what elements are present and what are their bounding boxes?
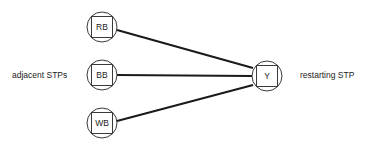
diagram-canvas: RB BB WB Y adjacent STPs restarting STP bbox=[0, 0, 373, 149]
node-bb[interactable]: BB bbox=[87, 60, 117, 90]
node-bb-label: BB bbox=[96, 70, 108, 80]
node-rb-label: RB bbox=[96, 22, 108, 32]
node-wb-label: WB bbox=[95, 118, 109, 128]
node-y[interactable]: Y bbox=[252, 61, 282, 91]
edge-rb-to-y bbox=[117, 30, 253, 68]
edge-group bbox=[117, 30, 253, 121]
node-y-label: Y bbox=[264, 71, 270, 81]
edge-wb-to-y bbox=[117, 85, 253, 121]
edge-bb-to-y bbox=[117, 75, 252, 76]
node-rb[interactable]: RB bbox=[87, 12, 117, 42]
adjacent-stps-label: adjacent STPs bbox=[12, 71, 67, 80]
restarting-stp-label: restarting STP bbox=[300, 71, 354, 80]
node-wb[interactable]: WB bbox=[87, 108, 117, 138]
